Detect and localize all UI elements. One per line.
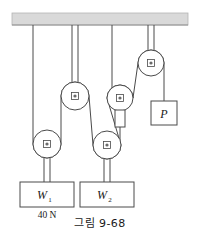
block-w2-subscript: 2	[108, 196, 112, 204]
pulley-movable-right	[93, 131, 121, 159]
pulley-a-axle	[73, 94, 76, 97]
block-w1-subscript: 1	[48, 196, 52, 204]
pulley-movable-left	[33, 130, 61, 158]
ceiling-bar	[12, 13, 188, 25]
rope-pulley-c-to-pulley-e-left	[133, 63, 138, 98]
pulley-c-axle	[118, 96, 121, 99]
block-p-label: P	[159, 107, 168, 121]
pulley-group	[33, 50, 164, 159]
pulley-fixed-upper-left	[61, 82, 89, 110]
block-w1-body	[20, 182, 74, 207]
block-w1-label: W	[37, 188, 48, 202]
pulley-e-axle	[149, 61, 152, 64]
pulley-d-axle	[105, 143, 108, 146]
pulley-system-diagram: W 1 40 N W 2 P	[0, 0, 200, 239]
pulley-fixed-middle-right	[107, 85, 133, 127]
pulley-c-hanger-block	[115, 110, 125, 127]
block-w2-body	[80, 182, 134, 207]
block-w2-label: W	[97, 188, 108, 202]
block-p: P	[151, 101, 177, 125]
ceiling-support	[12, 13, 188, 25]
block-w2: W 2	[80, 182, 134, 207]
pulley-fixed-upper-right	[138, 50, 164, 76]
pulley-b-axle	[45, 142, 48, 145]
block-w1: W 1	[20, 182, 74, 207]
figure-container: W 1 40 N W 2 P 그림 9-68	[0, 0, 200, 239]
rope-network	[33, 25, 164, 182]
figure-caption: 그림 9-68	[0, 214, 200, 230]
rope-pulley-a-to-pulley-d-left	[89, 96, 93, 145]
